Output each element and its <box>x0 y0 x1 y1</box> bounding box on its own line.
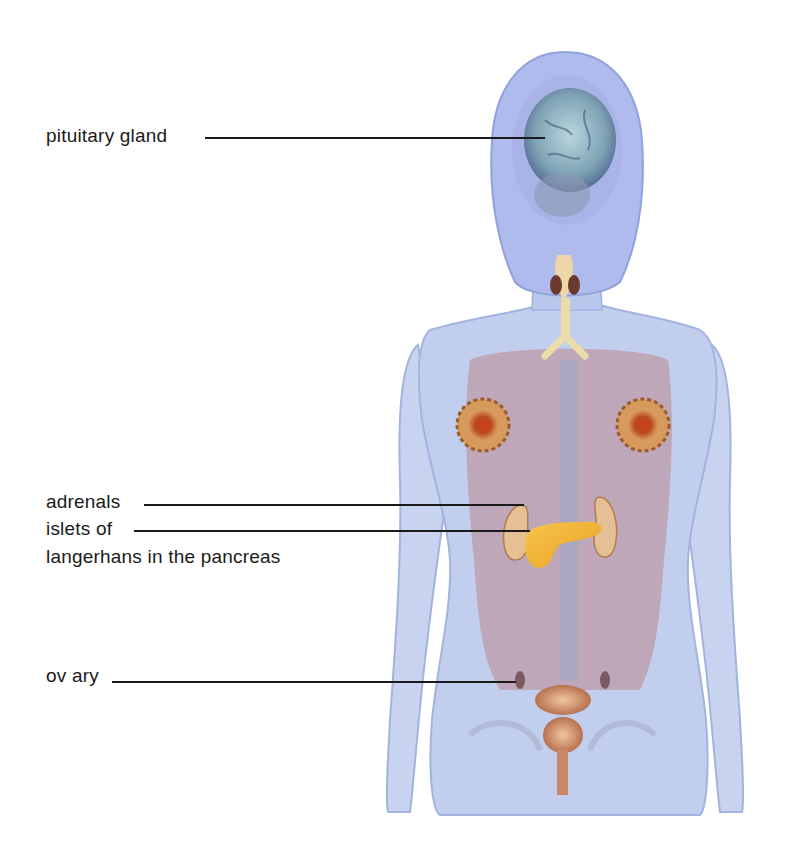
leader-line-adrenals <box>144 504 524 506</box>
leader-line-islets <box>134 530 530 532</box>
label-langerhans-pancreas: langerhans in the pancreas <box>46 546 280 568</box>
ovary-left <box>515 671 525 689</box>
leader-line-ovary <box>112 681 516 683</box>
breast-gland-right <box>617 399 669 451</box>
label-pituitary-gland: pituitary gland <box>46 125 167 147</box>
label-ovary: ov ary <box>46 665 99 687</box>
ovary-right <box>600 671 610 689</box>
label-adrenals: adrenals <box>46 491 120 513</box>
breast-gland-left <box>457 399 509 451</box>
leader-line-pituitary <box>205 137 545 139</box>
label-islets-of: islets of <box>46 518 112 540</box>
